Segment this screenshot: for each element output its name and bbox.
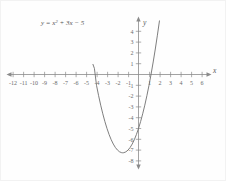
- y-tick-label: -5: [129, 126, 134, 132]
- x-axis-arrow-left: [7, 72, 12, 76]
- y-tick-label: -8: [129, 158, 134, 164]
- x-tick-label: -9: [42, 80, 47, 86]
- equation-suffix: + 3x − 5: [58, 19, 85, 27]
- x-axis-label: x: [212, 66, 217, 75]
- equation-prefix: y = x: [40, 19, 56, 27]
- y-axis-arrow-top: [136, 17, 140, 22]
- y-axis: [136, 17, 140, 170]
- x-tick-label: -10: [30, 80, 38, 86]
- y-tick-label: 1: [131, 61, 134, 67]
- parabola-curve: [93, 21, 160, 153]
- y-tick-label: 3: [131, 39, 134, 45]
- x-tick-label: -8: [53, 80, 58, 86]
- equation-annotation: y = x2 + 3x − 5: [40, 19, 85, 27]
- y-axis-label: y: [142, 18, 147, 27]
- y-axis-arrow-bottom: [136, 165, 140, 170]
- x-tick-label: 2: [159, 80, 162, 86]
- coordinate-plane: -12 -11 -10 -9 -8 -7 -6 -5 -4 -3 -2 -1 1…: [1, 1, 226, 181]
- x-tick-label: -4: [95, 80, 100, 86]
- x-tick-label: -5: [84, 80, 89, 86]
- y-tick-label: 2: [131, 50, 134, 56]
- x-tick-label: -11: [20, 80, 28, 86]
- x-tick-label: 4: [180, 80, 183, 86]
- x-axis-arrow-right: [207, 72, 212, 76]
- y-tick-label: -2: [129, 93, 134, 99]
- y-tick-label: 4: [131, 29, 134, 35]
- y-tick-label: -6: [129, 137, 134, 143]
- x-tick-label: -7: [63, 80, 68, 86]
- x-tick-label: -12: [9, 80, 17, 86]
- x-tick-label: -2: [116, 80, 121, 86]
- x-tick-label: -6: [74, 80, 79, 86]
- y-tick-label: -4: [129, 115, 134, 121]
- y-tick-label: -1: [129, 83, 134, 89]
- x-tick-label: 3: [169, 80, 172, 86]
- x-tick-label: 5: [190, 80, 193, 86]
- graph-figure: -12 -11 -10 -9 -8 -7 -6 -5 -4 -3 -2 -1 1…: [0, 0, 226, 181]
- y-tick-label: -3: [129, 104, 134, 110]
- x-axis-tick-labels: -12 -11 -10 -9 -8 -7 -6 -5 -4 -3 -2 -1 1…: [9, 80, 204, 86]
- x-tick-label: 6: [201, 80, 204, 86]
- x-tick-label: -3: [105, 80, 110, 86]
